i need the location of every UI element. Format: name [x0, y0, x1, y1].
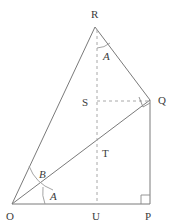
angle-labels: A B A [39, 50, 110, 202]
vertex-label-U: U [92, 210, 100, 222]
vertex-label-O: O [6, 210, 14, 222]
vertex-label-Q: Q [158, 94, 166, 106]
segment-OR [12, 27, 95, 204]
vertex-label-R: R [91, 8, 99, 20]
geometry-figure: R Q S T O U P A B A [0, 0, 174, 224]
angle-arc-O-A [43, 187, 45, 204]
vertex-label-P: P [145, 210, 151, 222]
vertex-label-S: S [82, 96, 88, 108]
right-angle-markers [139, 97, 150, 204]
figure-canvas: R Q S T O U P A B A [0, 0, 174, 224]
angle-label-R-A: A [102, 50, 110, 62]
right-angle-marker-P [141, 195, 150, 204]
angle-label-O-B: B [39, 168, 46, 180]
solid-edges [12, 27, 150, 204]
angle-label-O-A: A [49, 190, 57, 202]
segment-RQ [95, 27, 150, 100]
segment-OQ [12, 100, 150, 204]
vertex-label-T: T [102, 147, 109, 159]
